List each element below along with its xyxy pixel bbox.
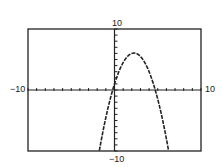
x-min-label: −10 xyxy=(10,84,25,94)
y-min-label: −10 xyxy=(109,154,124,164)
x-max-label: 10 xyxy=(205,84,215,94)
y-max-label: 10 xyxy=(112,18,122,28)
